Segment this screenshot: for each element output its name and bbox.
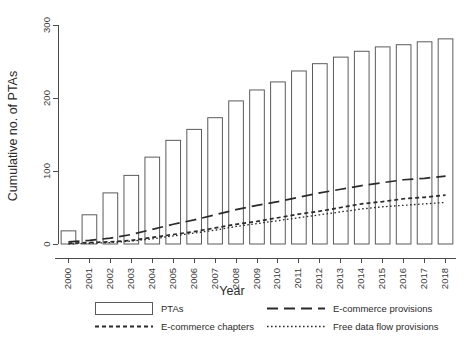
x-axis-tick-label: 2000 [62, 268, 73, 289]
x-axis-tick-label: 2013 [334, 268, 345, 289]
x-axis-tick-label: 2005 [167, 268, 178, 289]
chart-figure: 0100200300 20002001200220032004200520062… [0, 0, 465, 342]
y-axis-tick-label: 100 [41, 163, 52, 179]
x-axis-tick-label: 2011 [292, 268, 303, 288]
legend-label-e-commerce-chapters: E-commerce chapters [161, 320, 254, 333]
bar [229, 101, 244, 244]
bar [417, 42, 432, 244]
bar [354, 51, 369, 244]
x-axis-tick-label: 2003 [125, 268, 136, 289]
bar-series-ptas [61, 39, 453, 244]
chart-plot-area: 0100200300 20002001200220032004200520062… [0, 0, 465, 342]
x-axis-tick-label: 2016 [397, 268, 408, 289]
x-axis-tick-label: 2007 [209, 268, 220, 289]
legend-key-dashed-line-icon [95, 320, 153, 333]
x-axis-tick-label: 2010 [271, 268, 282, 289]
x-axis-tick-label: 2012 [313, 268, 324, 289]
y-axis-tick-label: 200 [41, 90, 52, 106]
x-axis [55, 258, 456, 263]
bar [438, 39, 453, 244]
y-axis-tick-labels: 0100200300 [41, 17, 52, 247]
x-axis-tick-label: 2004 [146, 268, 157, 289]
bar [396, 45, 411, 244]
bar [145, 157, 160, 244]
y-axis [53, 25, 58, 244]
x-axis-tick-label: 2006 [188, 268, 199, 289]
x-axis-tick-label: 2014 [355, 268, 366, 289]
x-axis-title: Year [219, 284, 244, 298]
legend-item-e-commerce-chapters: E-commerce chapters [95, 318, 255, 334]
x-axis-tick-labels: 2000200120022003200420052006200720082009… [62, 268, 450, 289]
legend-key-long-dash-line-icon [267, 302, 325, 315]
legend-label-ptas: PTAs [161, 302, 184, 315]
legend-item-free-data-flow-provisions: Free data flow provisions [267, 318, 437, 334]
y-axis-ticks [53, 25, 58, 244]
legend-key-box-icon [95, 302, 153, 315]
legend-item-e-commerce-provisions: E-commerce provisions [267, 300, 437, 316]
bar [103, 193, 118, 244]
legend-label-free-data-flow-provisions: Free data flow provisions [333, 320, 439, 333]
x-axis-tick-label: 2015 [376, 268, 387, 289]
bar [333, 57, 348, 244]
bar [313, 64, 328, 244]
bar [208, 118, 223, 244]
x-axis-tick-label: 2001 [83, 268, 94, 289]
legend-item-ptas: PTAs [95, 300, 255, 316]
y-axis-tick-label: 300 [41, 17, 52, 33]
x-axis-ticks [68, 258, 445, 263]
legend-label-e-commerce-provisions: E-commerce provisions [333, 302, 432, 315]
x-axis-tick-label: 2009 [251, 268, 262, 289]
x-axis-tick-label: 2017 [418, 268, 429, 289]
x-axis-tick-label: 2002 [104, 268, 115, 289]
bar [166, 140, 181, 244]
bar [375, 47, 390, 244]
x-axis-tick-label: 2018 [439, 268, 450, 289]
y-axis-tick-label: 0 [41, 241, 52, 246]
bar [187, 129, 202, 244]
chart-legend: PTAs E-commerce chapters E-commerce prov… [95, 300, 415, 336]
legend-key-dotted-line-icon [267, 320, 325, 333]
y-axis-title: Cumulative no. of PTAs [6, 71, 20, 201]
